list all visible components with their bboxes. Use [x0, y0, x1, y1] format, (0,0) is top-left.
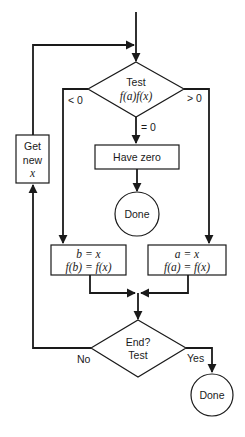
end-decision-line2: Test: [128, 349, 147, 361]
connector-equals-zero: = 0: [136, 117, 156, 143]
connector-merge: [90, 275, 188, 319]
update-b-line2: f(b) = f(x): [65, 261, 111, 274]
get-new-line2: new: [23, 154, 43, 166]
label-equals-zero: = 0: [141, 121, 156, 133]
end-decision: End? Test: [91, 320, 186, 377]
connector-greater-than-zero: > 0: [184, 89, 209, 243]
connector-less-than-zero: < 0: [63, 89, 88, 243]
done-end-label: Done: [199, 389, 224, 401]
flowchart: Test f(a)f(x) < 0 > 0 = 0 Have zero Done…: [0, 0, 245, 437]
label-no: No: [77, 353, 91, 365]
done-terminal-zero: Done: [115, 192, 159, 236]
test-decision: Test f(a)f(x): [88, 62, 184, 117]
update-b-line1: b = x: [76, 248, 101, 260]
get-new-x-box: Get new x: [16, 135, 49, 183]
have-zero-box: Have zero: [95, 145, 179, 169]
label-greater-than-zero: > 0: [187, 92, 202, 104]
done-terminal-end: Done: [191, 374, 233, 416]
update-a-box: a = x f(a) = f(x): [148, 245, 226, 275]
done-zero-label: Done: [124, 208, 149, 220]
get-new-line3: x: [29, 167, 36, 179]
label-less-than-zero: < 0: [68, 94, 83, 106]
get-new-line1: Get: [24, 140, 41, 152]
test-decision-label: Test: [126, 76, 145, 88]
update-b-box: b = x f(b) = f(x): [51, 245, 126, 275]
have-zero-label: Have zero: [113, 151, 161, 163]
end-decision-line1: End?: [126, 336, 151, 348]
test-decision-expr: f(a)f(x): [120, 90, 153, 103]
label-yes: Yes: [187, 352, 204, 364]
update-a-line1: a = x: [175, 248, 200, 260]
update-a-line2: f(a) = f(x): [164, 261, 210, 274]
connector-yes: Yes: [186, 348, 212, 372]
